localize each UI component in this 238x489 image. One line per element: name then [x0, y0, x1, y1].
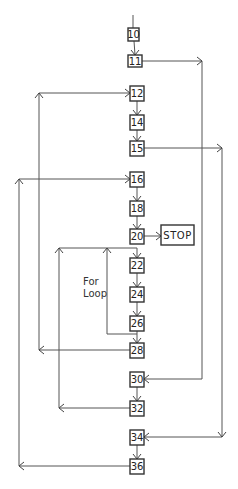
node-label: 32 — [131, 403, 144, 414]
node-label: STOP — [163, 230, 191, 241]
node-label: 24 — [131, 289, 144, 300]
node-label: 34 — [131, 432, 144, 443]
edge-10-11 — [134, 41, 135, 55]
node-15: 15 — [130, 141, 144, 156]
node-label: 12 — [131, 88, 144, 99]
edge-36-16 — [19, 179, 130, 466]
node-label: 15 — [131, 143, 144, 154]
loop-top-edge — [59, 248, 137, 258]
node-label: 16 — [131, 174, 144, 185]
node-11: 11 — [128, 55, 142, 67]
node-label: 11 — [129, 56, 142, 67]
node-32: 32 — [130, 401, 144, 416]
node-20: 20 — [130, 229, 144, 244]
node-28: 28 — [130, 343, 144, 358]
edge-32-22 — [59, 248, 130, 408]
flowchart: 10 11 12 14 15 16 18 20 STOP 22 24 26 28… — [0, 0, 238, 489]
for-loop-label-line1: For — [83, 276, 100, 287]
node-10: 10 — [127, 28, 140, 41]
node-14: 14 — [130, 115, 144, 130]
node-36: 36 — [130, 459, 144, 474]
edge-11-30 — [142, 61, 202, 379]
edge-28-12 — [39, 93, 130, 350]
for-loop-label-line2: Loop — [83, 288, 107, 299]
node-label: 10 — [127, 29, 140, 40]
node-12: 12 — [130, 86, 144, 101]
edge-15-34 — [144, 148, 222, 437]
node-24: 24 — [130, 287, 144, 302]
node-18: 18 — [130, 201, 144, 216]
node-label: 26 — [131, 318, 144, 329]
node-label: 20 — [131, 231, 144, 242]
node-label: 30 — [131, 374, 144, 385]
node-label: 36 — [131, 461, 144, 472]
node-label: 18 — [131, 203, 144, 214]
node-30: 30 — [130, 372, 144, 387]
node-16: 16 — [130, 172, 144, 187]
node-label: 14 — [131, 117, 144, 128]
node-label: 22 — [131, 260, 144, 271]
node-26: 26 — [130, 316, 144, 331]
node-22: 22 — [130, 258, 144, 273]
node-label: 28 — [131, 345, 144, 356]
node-34: 34 — [130, 430, 144, 445]
node-stop: STOP — [161, 225, 194, 245]
